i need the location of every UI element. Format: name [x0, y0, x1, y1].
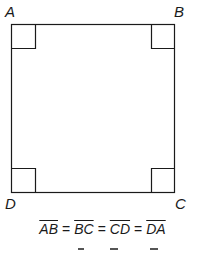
- cropped-next-line: [0, 248, 205, 253]
- segment-bc: BC: [74, 221, 93, 237]
- right-angle-mark-b: [152, 25, 175, 49]
- vertex-label-c: C: [175, 196, 186, 211]
- right-angle-mark-c: [152, 169, 175, 193]
- vertex-label-b: B: [174, 4, 184, 19]
- equals-sign: =: [134, 221, 142, 237]
- vertex-label-d: D: [5, 196, 16, 211]
- square-abcd: [12, 25, 175, 193]
- vertex-label-a: A: [5, 4, 15, 19]
- equal-sides-equation: AB=BC=CD=DA: [0, 221, 205, 237]
- segment-cd: CD: [110, 221, 130, 237]
- equals-sign: =: [62, 221, 70, 237]
- square-diagram: [0, 0, 205, 253]
- equals-sign: =: [98, 221, 106, 237]
- right-angle-mark-a: [12, 25, 36, 49]
- segment-da: DA: [146, 221, 165, 237]
- segment-ab: AB: [39, 221, 58, 237]
- right-angle-mark-d: [12, 169, 36, 193]
